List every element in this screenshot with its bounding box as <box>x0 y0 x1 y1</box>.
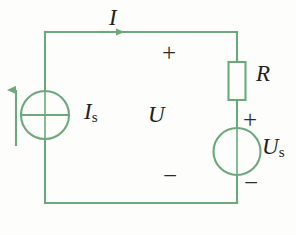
label-voltage-source-us: Us <box>262 135 285 160</box>
resistor-body <box>229 62 246 100</box>
polarity-u-minus: − <box>163 163 177 188</box>
label-voltage-source-subscript: s <box>279 143 285 160</box>
polarity-us-minus: − <box>244 170 258 195</box>
label-resistor-r: R <box>256 62 270 85</box>
label-voltage-u: U <box>148 103 165 126</box>
label-current-i: I <box>109 6 117 29</box>
polarity-us-plus: + <box>243 107 257 132</box>
polarity-u-plus: + <box>162 40 176 65</box>
label-current-source-is: Is <box>84 100 98 125</box>
label-voltage-source-symbol: U <box>262 134 279 159</box>
circuit-diagram: I Is U R Us + − + − <box>0 0 296 235</box>
label-current-source-subscript: s <box>92 108 98 125</box>
label-current-source-symbol: I <box>84 99 92 124</box>
